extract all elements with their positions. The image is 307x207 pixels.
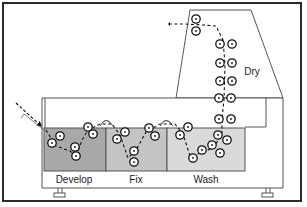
roller-icon	[72, 152, 80, 160]
feed-tray	[21, 114, 44, 130]
foot-right-icon	[262, 188, 273, 197]
roller-icon	[228, 77, 236, 85]
roller-icon	[227, 115, 235, 123]
roller-icon	[184, 123, 192, 131]
roller-icon	[228, 40, 236, 48]
roller-icon	[198, 146, 206, 154]
roller-icon	[223, 136, 231, 144]
roller-icon	[130, 147, 138, 155]
label-develop: Develop	[56, 174, 93, 185]
roller-icon	[216, 59, 224, 67]
label-wash: Wash	[193, 174, 218, 185]
roller-icon	[121, 128, 129, 136]
roller-icon	[56, 132, 64, 140]
label-dry: Dry	[244, 66, 260, 77]
roller-icon	[130, 158, 138, 166]
roller-icon	[71, 143, 79, 151]
roller-icon	[214, 131, 222, 139]
label-fix: Fix	[129, 174, 142, 185]
roller-icon	[192, 15, 200, 23]
roller-icon	[216, 40, 224, 48]
roller-icon	[48, 139, 56, 147]
exit-arrow-icon	[168, 22, 170, 26]
roller-icon	[189, 154, 197, 162]
roller-icon	[113, 135, 121, 143]
roller-icon	[208, 141, 216, 149]
foot-left-icon	[54, 188, 65, 197]
roller-icon	[228, 59, 236, 67]
roller-icon	[216, 149, 224, 157]
roller-icon	[192, 27, 200, 35]
roller-icon	[89, 130, 97, 138]
film-entry-arrow	[16, 103, 40, 125]
roller-icon	[227, 94, 235, 102]
roller-icon	[145, 124, 153, 132]
processor-diagram	[0, 0, 307, 207]
roller-icon	[216, 77, 224, 85]
roller-icon	[176, 131, 184, 139]
roller-icon	[215, 94, 223, 102]
roller-icon	[151, 132, 159, 140]
roller-icon	[215, 115, 223, 123]
